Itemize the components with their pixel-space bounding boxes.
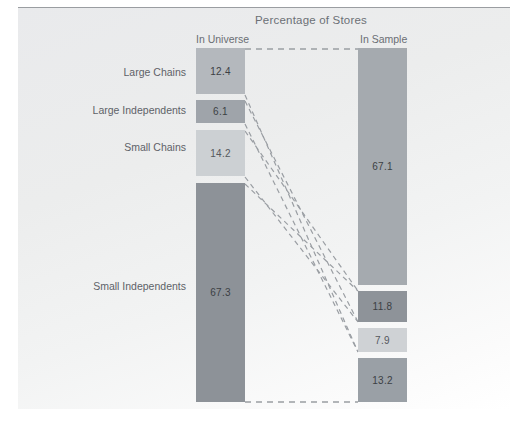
segment-sample-small-independents: 67.1 <box>358 48 407 285</box>
segment-value: 67.3 <box>210 287 231 298</box>
chart-title: Percentage of Stores <box>255 14 385 26</box>
segment-value: 13.2 <box>372 375 393 386</box>
column-header-in-universe: In Universe <box>196 33 249 45</box>
row-label-large-chains: Large Chains <box>26 66 186 78</box>
row-label-small-independents: Small Independents <box>26 280 186 292</box>
segment-universe-large-chains: 12.4 <box>196 48 245 94</box>
segment-value: 14.2 <box>210 148 231 159</box>
row-label-group: Large Chains Large Independents Small Ch… <box>26 48 186 403</box>
segment-universe-large-independents: 6.1 <box>196 100 245 123</box>
row-label-large-independents: Large Independents <box>26 104 186 116</box>
segment-value: 11.8 <box>373 301 393 312</box>
segment-sample-large-chains: 13.2 <box>358 358 407 402</box>
segment-value: 6.1 <box>213 106 228 117</box>
segment-value: 7.9 <box>375 335 390 346</box>
segment-value: 67.1 <box>372 161 393 172</box>
segment-universe-small-independents: 67.3 <box>196 183 245 402</box>
segment-sample-small-chains: 11.8 <box>358 291 407 322</box>
bar-in-sample: 67.1 11.8 7.9 13.2 <box>358 48 407 402</box>
chart-figure: Percentage of Stores In Universe In Samp… <box>0 0 510 429</box>
row-label-small-chains: Small Chains <box>26 141 186 153</box>
bar-in-universe: 12.4 6.1 14.2 67.3 <box>196 48 245 402</box>
segment-value: 12.4 <box>210 66 231 77</box>
column-header-in-sample: In Sample <box>360 33 407 45</box>
segment-universe-small-chains: 14.2 <box>196 130 245 176</box>
segment-sample-large-independents: 7.9 <box>358 328 407 352</box>
